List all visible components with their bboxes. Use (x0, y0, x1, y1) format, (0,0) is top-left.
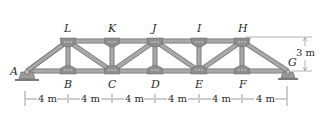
rivet-icon (244, 41, 246, 43)
node-label-c: C (108, 78, 117, 91)
node-label-j: J (150, 22, 157, 35)
rivet-icon (67, 69, 69, 71)
rivet-icon (108, 41, 110, 43)
member-fill-eh (199, 41, 242, 71)
rivet-icon (70, 69, 72, 71)
rivet-icon (241, 69, 243, 71)
member-fill-hg (242, 41, 288, 71)
rivet-icon (64, 69, 66, 71)
rivet-icon (151, 41, 153, 43)
rivet-icon (157, 41, 159, 43)
truss-diagram: A B C D E F G L K J I H 3 m 4 m 4 m 4 m … (0, 0, 326, 119)
rivet-icon (201, 69, 203, 71)
rivet-icon (157, 69, 159, 71)
rivet-icon (114, 69, 116, 71)
rivet-icon (198, 69, 200, 71)
node-label-k: K (107, 22, 117, 35)
rivet-icon (70, 41, 72, 43)
rivet-icon (238, 41, 240, 43)
height-dimension-label: 3 m (296, 47, 316, 58)
panel-dimension-fg: 4 m (256, 93, 276, 104)
member-fill-je (155, 41, 199, 71)
rivet-icon (154, 69, 156, 71)
rivet-icon (154, 41, 156, 43)
panel-dimension-bc: 4 m (81, 93, 101, 104)
rivet-icon (198, 41, 200, 43)
rivet-icon (195, 41, 197, 43)
rivet-icon (241, 41, 243, 43)
rivet-icon (151, 69, 153, 71)
panel-dimension-de: 4 m (168, 93, 188, 104)
node-label-b: B (63, 78, 72, 91)
rivet-icon (114, 41, 116, 43)
node-label-f: F (238, 78, 247, 91)
node-label-h: H (237, 22, 248, 35)
member-fill-lc (68, 41, 112, 71)
node-label-d: D (150, 78, 160, 91)
rivet-icon (67, 41, 69, 43)
panel-dimension-ef: 4 m (212, 93, 232, 104)
rivet-icon (111, 69, 113, 71)
rivet-icon (111, 41, 113, 43)
node-label-l: L (63, 22, 71, 35)
rivet-icon (238, 69, 240, 71)
rivet-icon (195, 69, 197, 71)
member-fill-cj (112, 41, 155, 71)
rivet-icon (201, 41, 203, 43)
rivet-icon (244, 69, 246, 71)
node-label-a: A (9, 65, 18, 78)
rivet-icon (108, 69, 110, 71)
panel-dimension-ab: 4 m (38, 93, 58, 104)
member-fill-al (27, 41, 68, 71)
node-label-i: I (196, 22, 202, 35)
node-label-e: E (194, 78, 203, 91)
rivet-icon (64, 41, 66, 43)
panel-dimension-cd: 4 m (125, 93, 145, 104)
